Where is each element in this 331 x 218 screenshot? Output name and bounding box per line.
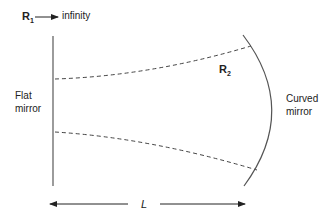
flat-mirror-label-line1: Flat: [15, 90, 32, 102]
length-label: L: [141, 198, 147, 210]
r1-label: R1: [22, 10, 34, 27]
r1-value: infinity: [62, 10, 90, 22]
curved-mirror-label-line1: Curved: [286, 93, 318, 105]
curved-mirror-label-line2: mirror: [286, 106, 312, 118]
resonator-diagram: [0, 0, 331, 218]
r2-label: R2: [219, 63, 231, 80]
beam-lower-edge: [55, 132, 257, 170]
flat-mirror-label-line2: mirror: [15, 103, 41, 115]
curved-mirror: [243, 35, 272, 186]
